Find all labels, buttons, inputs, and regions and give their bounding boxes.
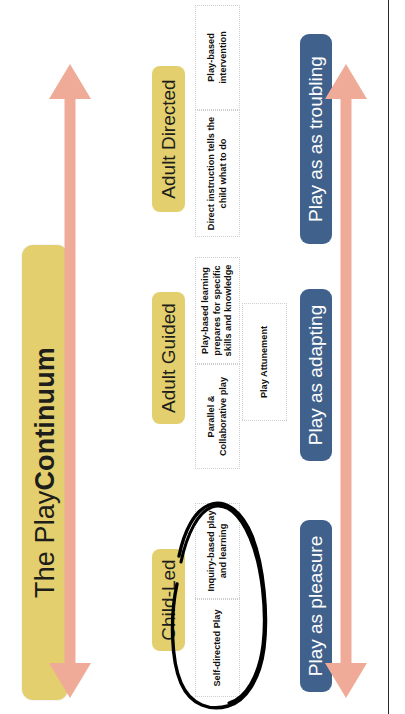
continuum-arrow <box>48 64 92 698</box>
descriptor-text: Play Attunement <box>259 326 271 398</box>
descriptor-box-self-directed-play: Self-directed Play <box>195 599 240 697</box>
stage-label-child-led[interactable]: Child-Led <box>152 549 185 651</box>
stage-label-text: Adult Directed <box>159 79 179 198</box>
arrow-shaft <box>341 97 352 665</box>
arrow-shaft <box>65 97 76 665</box>
arrow-head-right-icon <box>49 64 91 99</box>
descriptor-box-direct-instruction: Direct instruction tells the child what … <box>195 110 240 237</box>
descriptor-text: Self-directed Play <box>212 609 224 686</box>
descriptor-box-play-attunement: Play Attunement <box>242 303 287 421</box>
descriptor-box-inquiry-based-play: Inquiry-based play and learning <box>195 503 240 599</box>
descriptor-text: Parallel & Collaborative play <box>206 369 229 464</box>
descriptor-text: Inquiry-based play and learning <box>206 508 229 594</box>
play-mode-label: Play as adapting <box>306 305 326 446</box>
stage-label-text: Adult Guided <box>159 303 179 413</box>
arrow-head-right-icon <box>325 64 367 99</box>
play-modes-arrow <box>324 64 368 698</box>
play-mode-label: Play as as troubling <box>306 56 326 222</box>
arrow-head-left-icon <box>49 663 91 698</box>
descriptor-text: Play-based intervention <box>206 10 229 105</box>
footer-divider <box>388 0 389 714</box>
stage-label-text: Child-Led <box>159 559 179 640</box>
descriptor-box-play-based-intervention: Play-based intervention <box>195 5 240 110</box>
play-mode-label: Play as pleasure <box>306 536 326 676</box>
arrow-head-left-icon <box>325 663 367 698</box>
descriptor-text: Play-based learning prepares for specifi… <box>200 262 235 359</box>
descriptor-box-play-based-learning: Play-based learning prepares for specifi… <box>195 257 240 364</box>
stage-label-adult-guided[interactable]: Adult Guided <box>152 292 185 424</box>
poster-canvas: The Play Continuum Child-Led Adult Guide… <box>0 0 405 714</box>
descriptor-box-parallel-collaborative-play: Parallel & Collaborative play <box>195 364 240 469</box>
descriptor-text: Direct instruction tells the child what … <box>206 115 229 232</box>
stage-label-adult-directed[interactable]: Adult Directed <box>152 66 185 212</box>
